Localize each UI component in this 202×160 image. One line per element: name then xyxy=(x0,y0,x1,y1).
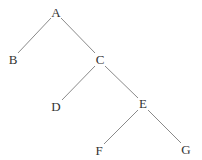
edge-c-e xyxy=(105,66,138,98)
nodes: A B C D E F G xyxy=(9,5,191,158)
edge-a-c xyxy=(61,18,95,53)
edge-e-f xyxy=(104,110,138,144)
edge-c-d xyxy=(62,66,95,100)
edges xyxy=(18,18,181,144)
node-f: F xyxy=(95,143,102,158)
tree-diagram: A B C D E F G xyxy=(0,0,202,160)
node-c: C xyxy=(96,52,105,67)
node-d: D xyxy=(51,99,60,114)
edge-a-b xyxy=(18,18,51,53)
node-g: G xyxy=(181,142,190,157)
edge-e-g xyxy=(148,110,181,143)
node-e: E xyxy=(139,96,147,111)
node-b: B xyxy=(9,52,18,67)
node-a: A xyxy=(51,5,61,20)
